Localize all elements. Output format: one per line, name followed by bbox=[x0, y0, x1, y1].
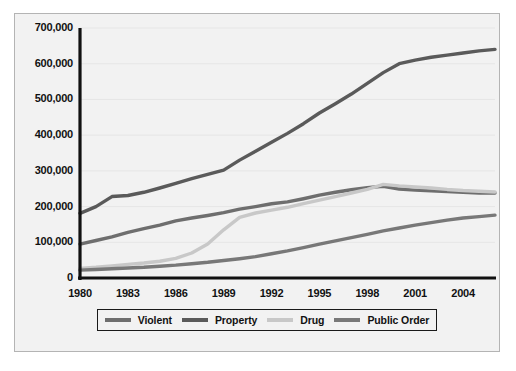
chart-legend: ViolentPropertyDrugPublic Order bbox=[97, 309, 437, 331]
y-tick-label: 400,000 bbox=[35, 128, 73, 140]
y-tick-label: 600,000 bbox=[35, 57, 73, 69]
legend-swatch bbox=[105, 318, 131, 322]
legend-item: Property bbox=[182, 314, 257, 326]
chart-svg bbox=[15, 14, 501, 353]
y-tick-label: 200,000 bbox=[35, 200, 73, 212]
y-tick-label: 100,000 bbox=[35, 235, 73, 247]
series-line-drug bbox=[80, 184, 495, 268]
legend-label: Violent bbox=[138, 314, 172, 326]
series-line-violent bbox=[80, 186, 495, 244]
legend-item: Public Order bbox=[334, 314, 429, 326]
y-tick-label: 700,000 bbox=[35, 21, 73, 33]
x-tick-label: 2004 bbox=[433, 287, 493, 299]
legend-label: Drug bbox=[300, 314, 324, 326]
legend-swatch bbox=[334, 318, 360, 322]
y-tick-label: 0 bbox=[67, 271, 73, 283]
plot-area: 0100,000200,000300,000400,000500,000600,… bbox=[15, 14, 501, 353]
legend-label: Public Order bbox=[367, 314, 429, 326]
legend-item: Violent bbox=[105, 314, 172, 326]
legend-label: Property bbox=[215, 314, 257, 326]
legend-swatch bbox=[267, 318, 293, 322]
y-tick-label: 500,000 bbox=[35, 92, 73, 104]
legend-swatch bbox=[182, 318, 208, 322]
y-tick-label: 300,000 bbox=[35, 164, 73, 176]
chart-figure: 0100,000200,000300,000400,000500,000600,… bbox=[14, 13, 500, 352]
legend-item: Drug bbox=[267, 314, 324, 326]
